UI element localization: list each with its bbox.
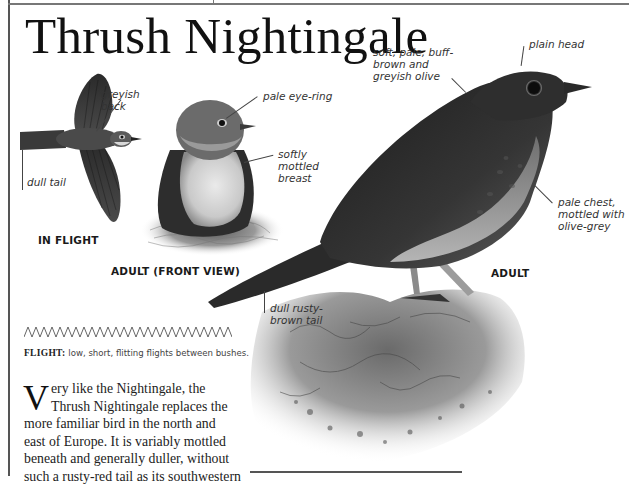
caption-in-flight: IN FLIGHT <box>38 234 99 246</box>
label-plain-head: plain head <box>529 38 584 50</box>
drop-cap: V <box>23 383 49 413</box>
zigzag-flight-icon <box>24 326 232 338</box>
page-border-left <box>8 0 10 476</box>
adult-bird-on-rock-illustration <box>200 62 629 472</box>
body-line: Thrush Nightingale replaces the <box>24 398 239 416</box>
body-line: more familiar bird in the north and <box>24 415 239 433</box>
caption-adult: ADULT <box>491 267 529 279</box>
page-border-tick <box>213 0 214 4</box>
page-title: Thrush Nightingale <box>25 6 428 66</box>
flight-label: FLIGHT: <box>24 348 66 358</box>
label-soft-pale-buff-brown: soft, pale, buff- brown and greyish oliv… <box>373 46 453 82</box>
body-line: east of Europe. It is variably mottled <box>24 433 239 451</box>
body-line: beneath and generally duller, without <box>24 450 239 468</box>
label-greyish-back: greyish back <box>101 88 140 112</box>
flight-description: FLIGHT: low, short, flitting flights bet… <box>24 348 249 358</box>
leader-dull-rusty-brown-tail <box>264 291 265 313</box>
label-dull-rusty-brown-tail: dull rusty- brown tail <box>270 302 323 326</box>
body-line: ery like the Nightingale, the <box>24 380 239 398</box>
species-description: V ery like the Nightingale, the Thrush N… <box>24 380 239 486</box>
body-line: such a rusty-red tail as its southwester… <box>24 468 239 486</box>
label-pale-chest: pale chest, mottled with olive-grey <box>558 196 625 232</box>
label-dull-tail: dull tail <box>27 176 66 188</box>
flight-text: low, short, flitting flights between bus… <box>68 348 249 358</box>
page-border-top <box>8 3 629 5</box>
leader-dull-tail <box>22 150 23 190</box>
